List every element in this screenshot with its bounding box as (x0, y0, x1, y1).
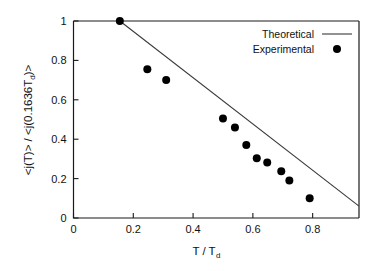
data-point (242, 141, 250, 149)
svg-text:T / T: T / T (192, 245, 215, 257)
y-tick-label: 0.4 (51, 133, 66, 145)
data-point (306, 194, 314, 202)
y-tick-label: 0 (60, 212, 66, 224)
x-tick-label: 0.2 (126, 223, 141, 235)
data-point (263, 158, 271, 166)
data-point (219, 115, 227, 123)
scatter-plot: 00.20.40.60.8 00.20.40.60.81 Theoretical… (0, 0, 381, 271)
legend-label: Experimental (253, 43, 314, 55)
y-tick-label: 0.6 (51, 94, 66, 106)
data-point (162, 76, 170, 84)
x-tick-label: 0.4 (185, 223, 200, 235)
legend-label: Theoretical (262, 28, 314, 40)
y-tick-label: 1 (60, 15, 66, 27)
x-tick-label: 0 (70, 223, 76, 235)
data-point (253, 154, 261, 162)
chart-figure: 00.20.40.60.8 00.20.40.60.81 Theoretical… (0, 0, 381, 271)
data-point (285, 177, 293, 185)
svg-text:d: d (216, 251, 220, 260)
data-point (143, 65, 151, 73)
data-point (277, 167, 285, 175)
data-point (231, 123, 239, 131)
x-tick-label: 0.6 (245, 223, 260, 235)
x-tick-label: 0.8 (305, 223, 320, 235)
y-tick-label: 0.8 (51, 54, 66, 66)
y-tick-label: 0.2 (51, 173, 66, 185)
data-point (116, 17, 124, 25)
legend-dot-swatch (333, 45, 341, 53)
